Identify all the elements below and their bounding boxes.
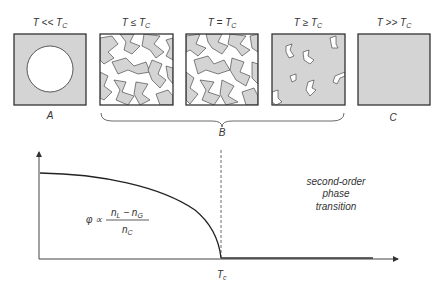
panel-C [358,34,430,105]
svg-text:T = TC: T = TC [208,17,238,29]
panel-label-A: T << TC [33,17,68,29]
panel-B2 [186,34,258,105]
letter-A: A [46,110,54,121]
svg-text:nL − nG: nL − nG [111,207,143,219]
panel-A [14,34,86,105]
panel-label-B2: T = TC [208,17,238,29]
svg-text:T >> TC: T >> TC [377,17,412,29]
panel-label-B3: T ≥ TC [294,17,323,29]
panel-label-C: T >> TC [377,17,412,29]
letter-C: C [389,112,397,123]
tc-tick-label: Tc [217,269,227,281]
brace-B [101,113,344,127]
panel-label-B1: T ≤ TC [122,17,151,29]
svg-text:transition: transition [316,201,357,212]
svg-text:T << TC: T << TC [33,17,68,29]
letter-B: B [219,127,226,138]
panel-B3 [272,34,345,105]
svg-text:T ≥ TC: T ≥ TC [294,17,323,29]
svg-text:T ≤ TC: T ≤ TC [122,17,151,29]
svg-text:φ ∝: φ ∝ [86,214,103,225]
panel-B1 [100,34,173,105]
second-order-annotation: second-order phase transition [307,176,367,212]
svg-text:nC: nC [122,224,134,236]
order-parameter-formula: φ ∝ nL − nG nC [86,207,149,236]
svg-text:phase: phase [321,188,350,199]
phase-transition-diagram: T << TC T ≤ TC T = TC T ≥ TC T >> TC [0,0,443,288]
svg-text:second-order: second-order [307,176,367,187]
